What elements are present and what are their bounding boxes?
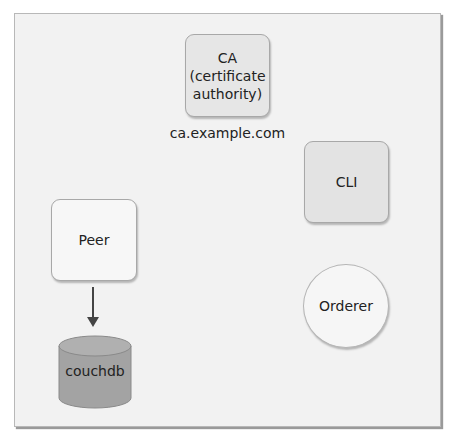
- peer-node: Peer: [51, 199, 137, 281]
- ca-node: CA (certificate authority): [185, 34, 270, 117]
- peer-label: Peer: [79, 231, 110, 249]
- ca-hostname-label: ca.example.com: [160, 125, 295, 141]
- ca-title: CA: [189, 49, 265, 67]
- couchdb-label: couchdb: [57, 363, 133, 379]
- cli-node: CLI: [304, 141, 389, 223]
- orderer-node: Orderer: [303, 264, 389, 348]
- orderer-label: Orderer: [319, 297, 373, 315]
- ca-subtitle-2: authority): [189, 85, 265, 103]
- cli-label: CLI: [336, 173, 358, 191]
- ca-subtitle-1: (certificate: [189, 67, 265, 85]
- arrow-down-icon: [85, 287, 101, 329]
